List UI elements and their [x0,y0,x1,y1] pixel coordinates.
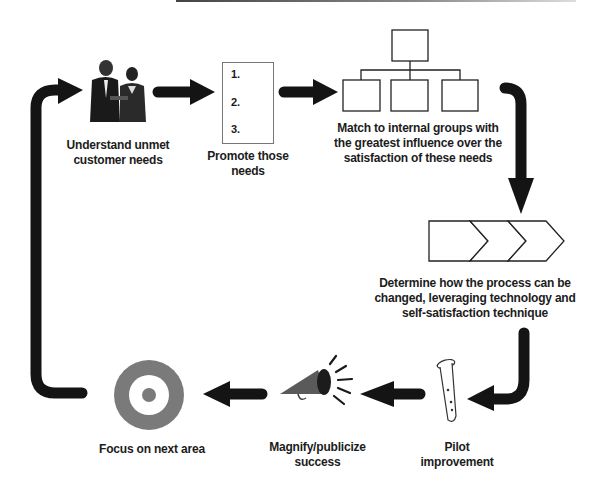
process-chevrons-icon [428,220,568,264]
megaphone-icon [278,352,358,412]
test-tube-icon [434,358,464,424]
arrowhead-icon [508,178,534,214]
numbered-list-icon: 1. 2. 3. [222,62,274,144]
list-item: 2. [231,96,240,108]
step-label-match: Match to internal groups withthe greates… [318,121,518,166]
step-label-magnify: Magnify/publicizesuccess [265,440,370,470]
step-label-pilot: Pilotimprovement [412,440,502,470]
arrow-loop-back [36,90,82,393]
arrowhead-icon [313,79,338,105]
arrowhead-icon [58,78,83,104]
arrowhead-icon [190,79,215,105]
business-people-icon [82,58,154,128]
list-item: 1. [231,68,240,80]
step-label-focus: Focus on next area [92,442,212,457]
step-label-understand: Understand unmetcustomer needs [58,138,178,168]
arrowhead-icon [467,385,494,411]
target-icon [113,359,185,431]
step-label-promote: Promote thoseneeds [200,149,296,179]
arrowhead-icon [203,381,230,407]
org-chart-icon [342,28,492,114]
list-item: 3. [231,123,240,135]
arrowhead-icon [360,381,394,407]
step-label-determine: Determine how the process can bechanged,… [370,276,580,321]
